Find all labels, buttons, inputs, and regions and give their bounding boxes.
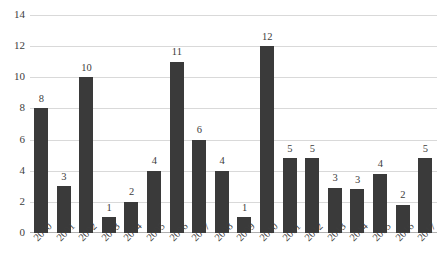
bar-value-label: 11: [166, 47, 189, 58]
bar[interactable]: [34, 108, 48, 233]
y-axis-tick-label: 2: [0, 196, 25, 207]
bar-value-label: 2: [392, 190, 415, 201]
bar-value-label: 5: [301, 144, 324, 155]
y-axis-tick-label: 14: [0, 9, 25, 20]
bar-value-label: 4: [369, 159, 392, 170]
bar-slot: 6: [188, 15, 211, 233]
bar-value-label: 3: [346, 175, 369, 186]
bar-slot: 4: [211, 15, 234, 233]
x-axis-tick-labels: 2000200120022003200420052006200720082009…: [30, 236, 437, 279]
y-axis-tick-label: 12: [0, 40, 25, 51]
bar-slot: 12: [256, 15, 279, 233]
bar-slot: 3: [346, 15, 369, 233]
bar-value-label: 4: [143, 156, 166, 167]
bar-value-label: 3: [324, 173, 347, 184]
bar-value-label: 3: [53, 172, 76, 183]
bar-slot: 10: [75, 15, 98, 233]
y-axis-tick-label: 10: [0, 71, 25, 82]
bar-slot: 1: [233, 15, 256, 233]
bars-layer: 831012411641125533425: [30, 15, 437, 233]
bar-value-label: 1: [98, 203, 121, 214]
bar-slot: 1: [98, 15, 121, 233]
bar[interactable]: [170, 62, 184, 233]
bar-value-label: 5: [414, 144, 437, 155]
bar-value-label: 12: [256, 32, 279, 43]
bar-slot: 5: [279, 15, 302, 233]
bar-slot: 4: [143, 15, 166, 233]
bar-slot: 2: [392, 15, 415, 233]
bar-slot: 2: [120, 15, 143, 233]
bar-slot: 3: [324, 15, 347, 233]
bar[interactable]: [79, 77, 93, 233]
bar-value-label: 5: [279, 144, 302, 155]
bar[interactable]: [260, 46, 274, 233]
bar-slot: 4: [369, 15, 392, 233]
bar-slot: 11: [166, 15, 189, 233]
y-axis-tick-label: 4: [0, 165, 25, 176]
bar-value-label: 1: [233, 203, 256, 214]
bar-chart: 831012411641125533425 02468101214 200020…: [0, 0, 443, 279]
bar-value-label: 2: [120, 187, 143, 198]
bar-slot: 5: [414, 15, 437, 233]
bar-slot: 3: [53, 15, 76, 233]
plot-area: 831012411641125533425: [30, 15, 437, 233]
bar-value-label: 6: [188, 125, 211, 136]
bar-slot: 8: [30, 15, 53, 233]
bar-value-label: 10: [75, 63, 98, 74]
bar-value-label: 8: [30, 94, 53, 105]
y-axis-tick-label: 6: [0, 134, 25, 145]
y-axis-tick-label: 0: [0, 227, 25, 238]
bar-slot: 5: [301, 15, 324, 233]
y-axis-tick-label: 8: [0, 102, 25, 113]
bar-value-label: 4: [211, 156, 234, 167]
